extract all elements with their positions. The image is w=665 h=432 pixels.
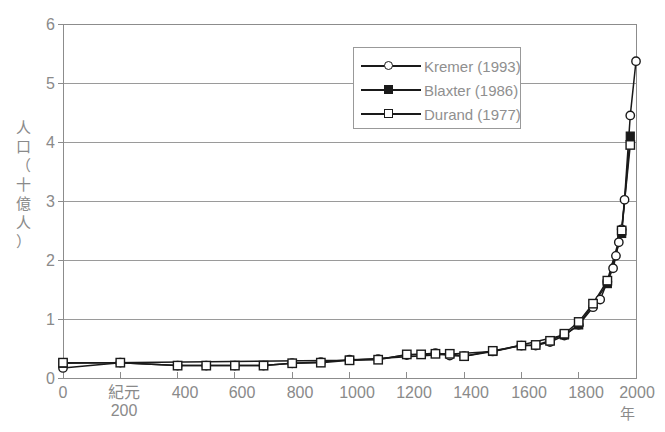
legend: Kremer (1993) Blaxter (1986) Durand (197…: [353, 47, 521, 129]
legend-label: Durand (1977): [421, 106, 521, 123]
legend-item-kremer: Kremer (1993): [354, 54, 520, 78]
x-axis-ticks: [63, 372, 636, 378]
series-lines: [63, 61, 636, 368]
plot-canvas: [0, 0, 665, 432]
y-axis-ticks: [58, 24, 63, 378]
legend-marker-open-circle-icon: [361, 59, 421, 73]
legend-marker-filled-square-icon: [361, 83, 421, 97]
series-markers: [59, 57, 640, 372]
population-growth-chart: 人 口 （ 十 億 人 ） 6 5 4 3 2 1 0 0 紀元 200 400…: [0, 0, 665, 432]
legend-marker-open-square-icon: [361, 107, 421, 121]
gridlines: [63, 83, 636, 319]
legend-label: Blaxter (1986): [421, 82, 518, 99]
legend-item-durand: Durand (1977): [354, 102, 520, 126]
legend-item-blaxter: Blaxter (1986): [354, 78, 520, 102]
legend-label: Kremer (1993): [421, 58, 521, 75]
